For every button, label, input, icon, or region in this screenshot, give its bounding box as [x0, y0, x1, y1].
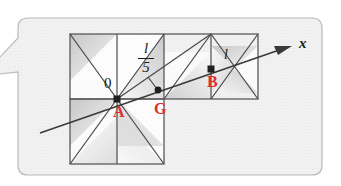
fraction-denominator: 5 — [138, 59, 154, 76]
point-g-label: G — [154, 101, 166, 117]
point-a-label: A — [113, 104, 125, 120]
length-l-label: l — [224, 48, 228, 62]
origin-label: 0 — [104, 76, 112, 91]
x-axis-label: x — [299, 36, 307, 51]
diagram-svg — [0, 0, 341, 186]
point-b-label: B — [207, 74, 218, 90]
point-b-marker — [208, 66, 215, 73]
fraction-numerator: l — [138, 41, 154, 57]
point-g-marker — [155, 87, 162, 94]
figure-canvas: 0 A G B l x l 5 — [0, 0, 341, 186]
point-a-marker — [114, 96, 121, 103]
fraction-l-over-5: l 5 — [138, 41, 154, 76]
